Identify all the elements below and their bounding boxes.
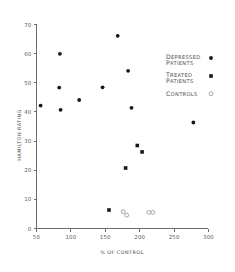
y-tick-label: 50 [24, 80, 32, 86]
legend: DEPRESSED PATIENTS TREATED PATIENTS CONT… [165, 53, 213, 97]
y-tick-label: 60 [24, 51, 32, 57]
y-tick-30: 30 [24, 138, 36, 144]
x-tick-50: 50 [33, 229, 41, 241]
x-tick-label: 300 [203, 234, 214, 240]
x-tick-group: 50 100 150 200 250 300 [33, 229, 214, 241]
x-tick-label: 100 [65, 234, 76, 240]
data-point [124, 166, 128, 170]
series-treated-patients [107, 144, 144, 212]
legend-entry-treated-patients[interactable]: TREATED PATIENTS [165, 71, 213, 85]
legend-entry-controls[interactable]: CONTROLS [166, 90, 213, 97]
legend-entry-depressed-patients[interactable]: DEPRESSED PATIENTS [166, 53, 213, 67]
y-tick-10: 10 [24, 196, 36, 202]
x-tick-300: 300 [203, 229, 214, 241]
data-point [58, 52, 62, 56]
data-point [39, 104, 43, 108]
data-point [107, 208, 111, 212]
legend-marker-filled-circle [209, 56, 213, 60]
data-point [147, 211, 151, 215]
data-point [192, 121, 196, 125]
x-tick-250: 250 [169, 229, 180, 241]
data-point [136, 144, 140, 148]
y-tick-label: 0 [28, 226, 32, 232]
data-point [59, 108, 63, 112]
y-tick-70: 70 [24, 22, 36, 28]
y-tick-label: 10 [24, 196, 32, 202]
data-point [151, 211, 155, 215]
y-tick-60: 60 [24, 51, 36, 57]
data-point [101, 85, 105, 89]
x-tick-label: 250 [169, 234, 180, 240]
y-tick-40: 40 [24, 109, 36, 115]
legend-label-line2: PATIENTS [166, 77, 194, 84]
y-tick-label: 30 [24, 138, 32, 144]
y-tick-label: 70 [24, 22, 32, 28]
y-tick-label: 20 [24, 167, 32, 173]
x-axis-title: % OF CONTROL [100, 249, 144, 255]
legend-marker-open-circle [209, 92, 213, 96]
data-point [116, 34, 120, 38]
data-point [57, 86, 61, 90]
data-point [140, 150, 144, 154]
data-point [130, 106, 134, 110]
legend-label-line1: DEPRESSED [166, 53, 201, 60]
x-tick-200: 200 [134, 229, 145, 241]
y-axis-title: HAMILTON RATING [16, 109, 22, 161]
scatter-plot-figure: 70 60 50 40 30 20 [0, 0, 235, 272]
legend-label-line1: CONTROLS [166, 90, 198, 97]
series-controls [121, 210, 154, 217]
y-tick-label: 40 [24, 109, 32, 115]
x-tick-label: 50 [33, 234, 41, 240]
x-tick-label: 150 [100, 234, 111, 240]
y-tick-50: 50 [24, 80, 36, 86]
data-point [126, 69, 130, 73]
x-tick-150: 150 [100, 229, 111, 241]
data-point [121, 210, 125, 214]
data-point [125, 213, 129, 217]
x-tick-label: 200 [134, 234, 145, 240]
y-tick-0: 0 [28, 226, 37, 232]
legend-marker-filled-square [209, 74, 213, 78]
y-tick-20: 20 [24, 167, 36, 173]
plot-canvas: 70 60 50 40 30 20 [0, 0, 235, 272]
legend-label-line2: PATIENTS [166, 59, 194, 66]
data-point [77, 98, 81, 102]
y-tick-group: 70 60 50 40 30 20 [24, 22, 36, 232]
x-tick-100: 100 [65, 229, 76, 241]
